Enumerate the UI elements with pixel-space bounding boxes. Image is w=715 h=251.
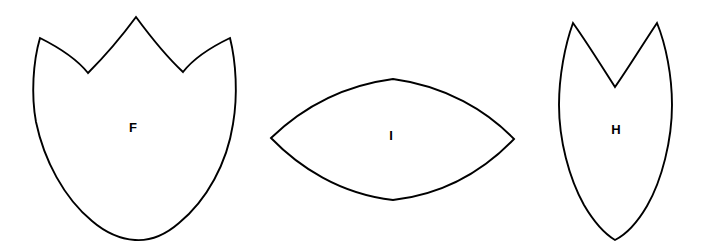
shape-label-h: H xyxy=(611,122,620,137)
shape-group-i: I xyxy=(271,79,514,200)
shape-label-f: F xyxy=(129,120,137,135)
shape-group-h: H xyxy=(559,23,672,240)
shape-group-f: F xyxy=(33,17,236,240)
shape-label-i: I xyxy=(389,128,393,143)
figure-canvas: F I H xyxy=(0,0,715,251)
shapes-figure: F I H xyxy=(0,0,715,251)
